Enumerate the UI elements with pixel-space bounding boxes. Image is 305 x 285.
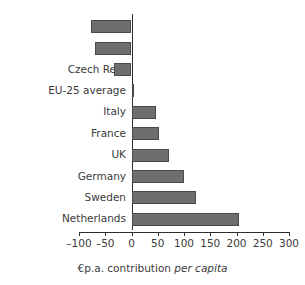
x-tick-label: 100 [174,237,194,249]
x-tick [158,232,159,236]
bar-poland [91,20,131,33]
bar-chart: PolandSpainCzech Rep.EU-25 averageItalyF… [0,0,305,285]
bar-germany [132,170,185,183]
bar-italy [132,106,156,119]
x-tick [184,232,185,236]
x-axis-title-plain: €p.a. contribution [78,262,175,274]
chart-title-strip [0,0,305,10]
x-tick [105,232,106,236]
x-tick-label: 150 [200,237,220,249]
x-axis-title-italic: per capita [174,262,227,274]
x-tick [263,232,264,236]
x-tick-label: 250 [253,237,273,249]
x-tick [79,232,80,236]
bar-spain [95,42,131,55]
x-tick [210,232,211,236]
x-tick-label: 50 [151,237,164,249]
x-tick [132,232,133,236]
bar-uk [132,149,169,162]
x-axis-title: €p.a. contribution per capita [0,262,305,274]
bar-netherlands [132,213,240,226]
x-tick-label: 300 [279,237,299,249]
bar-eu-25-average [132,84,135,97]
x-tick-label: –50 [96,237,115,249]
bars-container [0,12,305,234]
bar-france [132,127,159,140]
x-tick-label: 0 [128,237,135,249]
bar-czech-rep [114,63,131,76]
plot-area: PolandSpainCzech Rep.EU-25 averageItalyF… [0,12,305,234]
x-tick [237,232,238,236]
bar-sweden [132,191,196,204]
x-tick-label: –100 [66,237,91,249]
x-axis: –100–50050100150200250300 [0,232,305,246]
x-tick-label: 200 [226,237,246,249]
x-tick [289,232,290,236]
